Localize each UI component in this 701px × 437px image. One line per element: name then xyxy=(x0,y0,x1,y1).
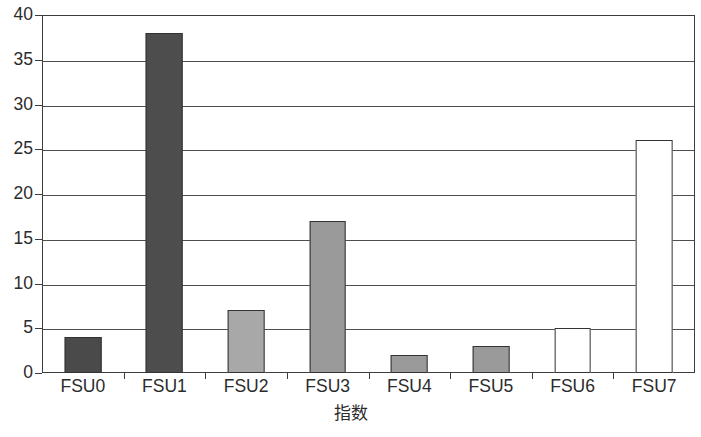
y-axis-tick-label: 20 xyxy=(14,185,33,203)
y-axis-tick-label: 25 xyxy=(14,141,33,159)
y-axis-tick xyxy=(35,15,42,16)
bar xyxy=(554,328,591,373)
bar xyxy=(391,355,428,373)
bar xyxy=(228,310,265,373)
y-axis-tick-label: 35 xyxy=(14,51,33,69)
bar xyxy=(309,221,346,373)
bar-slot xyxy=(42,15,124,373)
bar-slot xyxy=(613,15,695,373)
x-axis-tick-label: FSU1 xyxy=(142,377,187,396)
bar-slot xyxy=(287,15,369,373)
y-axis-tick-label: 0 xyxy=(23,364,33,382)
bar-slot xyxy=(205,15,287,373)
y-axis-tick xyxy=(35,239,42,240)
bar xyxy=(636,140,673,373)
x-axis-tick-labels: FSU0FSU1FSU2FSU3FSU4FSU5FSU6FSU7 xyxy=(42,377,695,401)
x-axis-tick-label: FSU0 xyxy=(60,377,105,396)
bars-group xyxy=(42,15,695,373)
y-axis-tick-label: 15 xyxy=(14,230,33,248)
y-axis-tick xyxy=(35,194,42,195)
y-axis-tick-label: 30 xyxy=(14,96,33,114)
x-axis-tick-label: FSU7 xyxy=(632,377,677,396)
bar-slot xyxy=(450,15,532,373)
x-axis-tick-label: FSU6 xyxy=(550,377,595,396)
bar xyxy=(473,346,510,373)
bar-slot xyxy=(532,15,614,373)
bar-slot xyxy=(369,15,451,373)
bar-slot xyxy=(124,15,206,373)
x-axis-tick-label: FSU4 xyxy=(387,377,432,396)
x-axis-tick-label: FSU5 xyxy=(469,377,514,396)
y-axis-tick xyxy=(35,60,42,61)
bar xyxy=(64,337,101,373)
x-axis-title: 指数 xyxy=(0,405,701,424)
y-axis-tick xyxy=(35,328,42,329)
y-axis-tick xyxy=(35,105,42,106)
x-axis-tick-label: FSU3 xyxy=(305,377,350,396)
y-axis-tick-label: 10 xyxy=(14,275,33,293)
y-axis-tick xyxy=(35,373,42,374)
y-axis-tick-label: 5 xyxy=(23,320,33,338)
y-axis-tick xyxy=(35,284,42,285)
y-axis-tick-label: 40 xyxy=(14,6,33,24)
y-axis-tick xyxy=(35,149,42,150)
x-axis-tick-label: FSU2 xyxy=(224,377,269,396)
bar-chart: 0510152025303540 FSU0FSU1FSU2FSU3FSU4FSU… xyxy=(0,0,701,437)
bar xyxy=(146,33,183,373)
